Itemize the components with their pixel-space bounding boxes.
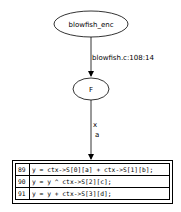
- line-number: 90: [16, 176, 30, 188]
- code-row: 90 y = y ^ ctx->S[2][c];: [16, 176, 170, 188]
- node-blowfish-enc[interactable]: blowfish_enc: [54, 11, 128, 37]
- node-blowfish-enc-label: blowfish_enc: [69, 21, 114, 29]
- code-line: y = y + ctx->S[3][d];: [30, 188, 170, 200]
- code-block-node[interactable]: 89 y = ctx->S[0][a] + ctx->S[1][b]; 90 y…: [12, 160, 173, 204]
- code-line: y = y ^ ctx->S[2][c];: [30, 176, 170, 188]
- code-table: 89 y = ctx->S[0][a] + ctx->S[1][b]; 90 y…: [15, 163, 170, 200]
- code-row: 89 y = ctx->S[0][a] + ctx->S[1][b];: [16, 164, 170, 176]
- code-line: y = ctx->S[0][a] + ctx->S[1][b];: [30, 164, 170, 176]
- line-number: 91: [16, 188, 30, 200]
- code-row: 91 y = y + ctx->S[3][d];: [16, 188, 170, 200]
- edge-label-source-location: blowfish.c:108:14: [92, 54, 154, 62]
- edge-label-a: a: [95, 131, 99, 139]
- node-f-label: F: [89, 86, 93, 94]
- edge-blowfish-enc-to-f: blowfish.c:108:14: [91, 37, 154, 76]
- line-number: 89: [16, 164, 30, 176]
- edge-label-x: x: [93, 121, 97, 129]
- edge-f-to-code: x a: [91, 100, 99, 159]
- node-f[interactable]: F: [73, 78, 109, 100]
